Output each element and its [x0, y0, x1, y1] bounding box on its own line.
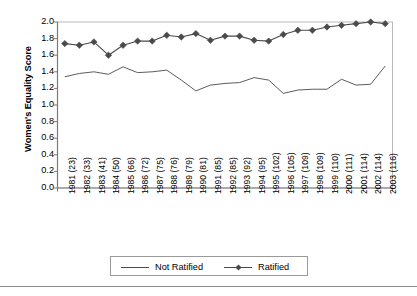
- x-tick-label: 1997 (109): [301, 152, 310, 194]
- x-tick-label: 1989 (79): [185, 157, 194, 194]
- x-tick-label: 1988 (76): [170, 157, 179, 194]
- bottom-divider: [0, 286, 417, 287]
- x-axis-tick-labels: 1981 (23)1982 (33)1983 (41)1984 (50)1985…: [0, 0, 417, 296]
- legend-label-ratified: Ratified: [258, 262, 289, 272]
- x-tick-label: 1999 (110): [331, 153, 340, 194]
- x-tick-label: 1986 (72): [141, 157, 150, 194]
- x-tick-label: 1998 (109): [316, 152, 325, 194]
- x-tick-label: 1995 (102): [272, 152, 281, 194]
- x-tick-label: 1993 (92): [243, 157, 252, 194]
- x-tick-label: 2001 (114): [360, 153, 369, 194]
- x-tick-label: 2003 (116): [389, 153, 398, 194]
- chart-figure: Women's Equality Score 0.00.20.40.60.81.…: [0, 0, 417, 296]
- chart-legend: Not Ratified Ratified: [110, 256, 308, 276]
- x-tick-label: 1996 (105): [287, 152, 296, 194]
- legend-item-not-ratified[interactable]: Not Ratified: [121, 257, 203, 277]
- x-tick-label: 1981 (23): [68, 157, 77, 194]
- x-tick-label: 1984 (50): [112, 157, 121, 194]
- x-tick-label: 1991 (85): [214, 157, 223, 194]
- legend-label-not-ratified: Not Ratified: [155, 262, 203, 272]
- legend-line-icon: [121, 262, 149, 272]
- x-tick-label: 1992 (85): [229, 157, 238, 194]
- x-tick-label: 2002 (114): [374, 153, 383, 194]
- legend-diamond-marker-icon: [224, 262, 252, 272]
- x-tick-label: 1982 (33): [83, 157, 92, 194]
- x-tick-label: 1990 (81): [199, 157, 208, 194]
- x-tick-label: 2000 (111): [345, 154, 354, 194]
- x-tick-label: 1987 (75): [156, 157, 165, 194]
- x-tick-label: 1985 (66): [127, 157, 136, 194]
- x-tick-label: 1983 (41): [98, 157, 107, 194]
- x-tick-label: 1994 (95): [258, 157, 267, 194]
- legend-item-ratified[interactable]: Ratified: [224, 257, 289, 277]
